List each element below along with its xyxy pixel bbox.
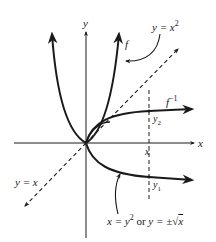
point-y1 xyxy=(147,175,150,178)
f-label: f xyxy=(125,39,128,50)
inverse-equation-label: x = y2 or y = ±√x xyxy=(107,216,183,227)
identity-line-label: y = x xyxy=(15,177,38,188)
y2-label: y2 xyxy=(153,114,161,124)
identity-line-lower xyxy=(25,143,86,206)
inverse-lower-branch xyxy=(86,143,192,180)
y1-label: y1 xyxy=(153,180,161,190)
x-marker-label: x xyxy=(145,147,149,157)
f-inverse-label: f−1 xyxy=(166,97,178,108)
x-axis-label: x xyxy=(198,138,203,149)
parabola-equation-label: y = x2 xyxy=(152,22,179,33)
y-axis-label: y xyxy=(83,18,88,29)
pointer-to-f xyxy=(126,34,160,61)
pointer-to-inverse xyxy=(115,174,120,214)
point-y2 xyxy=(147,109,150,112)
identity-line xyxy=(86,49,178,143)
function-inverse-diagram xyxy=(0,0,216,242)
